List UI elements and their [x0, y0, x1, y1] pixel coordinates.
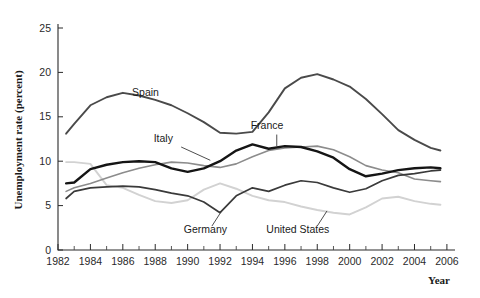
- y-tick-label: 10: [39, 155, 51, 167]
- x-tick-label: 1988: [144, 255, 168, 267]
- x-tick-label: 1998: [306, 255, 330, 267]
- y-tick-label: 25: [39, 22, 51, 34]
- x-tick-label: 2006: [435, 255, 459, 267]
- data-series: [66, 74, 440, 214]
- leader-italy: [181, 147, 210, 160]
- y-tick-labels: 0510152025: [39, 22, 51, 256]
- y-tick-label: 20: [39, 66, 51, 78]
- x-tick-labels: 1982198419861988199019921994199619982000…: [46, 255, 458, 267]
- x-tick-label: 2004: [403, 255, 427, 267]
- x-tick-label: 2000: [338, 255, 362, 267]
- x-tick-label: 1986: [111, 255, 135, 267]
- tick-marks: [58, 28, 447, 250]
- series-label-united-states: United States: [266, 223, 329, 235]
- axes: [58, 24, 455, 250]
- axis-lines: [58, 24, 455, 250]
- y-tick-label: 5: [45, 199, 51, 211]
- series-label-france: France: [251, 119, 284, 131]
- line-chart: 0510152025 19821984198619881990199219941…: [0, 0, 480, 298]
- chart-figure: 0510152025 19821984198619881990199219941…: [0, 0, 480, 298]
- series-label-italy: Italy: [154, 132, 174, 144]
- series-line-italy: [66, 146, 440, 191]
- x-tick-label: 2002: [370, 255, 394, 267]
- y-tick-label: 15: [39, 110, 51, 122]
- series-line-spain: [66, 74, 440, 150]
- x-tick-label: 1990: [176, 255, 200, 267]
- series-line-france: [66, 144, 440, 183]
- x-tick-label: 1994: [241, 255, 265, 267]
- series-line-germany: [66, 170, 440, 213]
- x-tick-label: 1984: [79, 255, 103, 267]
- y-axis-title: Unemployment rate (percent): [12, 70, 25, 209]
- x-tick-label: 1996: [273, 255, 297, 267]
- series-label-germany: Germany: [184, 223, 228, 235]
- series-labels: SpainItalyFranceGermanyUnited States: [132, 86, 329, 235]
- series-label-spain: Spain: [132, 86, 159, 98]
- x-tick-label: 1992: [208, 255, 232, 267]
- x-tick-label: 1982: [46, 255, 70, 267]
- x-axis-title: Year: [428, 274, 450, 286]
- y-tick-label: 0: [45, 244, 51, 256]
